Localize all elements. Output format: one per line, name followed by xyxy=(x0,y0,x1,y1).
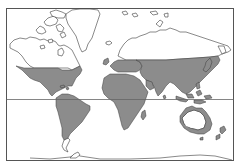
world-map xyxy=(0,0,239,166)
europe xyxy=(110,60,142,72)
